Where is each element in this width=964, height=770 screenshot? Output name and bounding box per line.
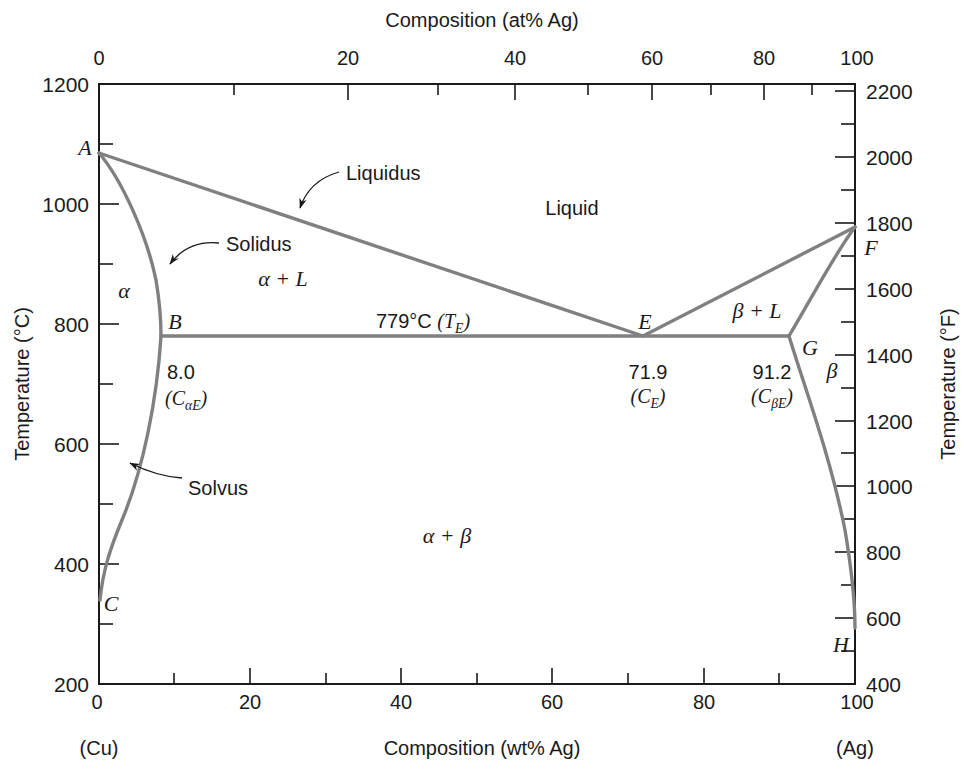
- point-label-A: A: [78, 137, 91, 159]
- right-tick-label-1400: 1400: [866, 345, 913, 366]
- phase-region-beta: β: [827, 360, 838, 382]
- phase-region-alpha-plus-l: α + L: [258, 268, 308, 290]
- right-tick-label-800: 800: [866, 542, 901, 563]
- top-axis-ticks: [99, 84, 855, 100]
- solidus-alpha-curve: [99, 153, 161, 336]
- right-tick-label-600: 600: [866, 608, 901, 629]
- top-axis-title: Composition (at% Ag): [385, 10, 578, 30]
- phase-boundaries: [99, 153, 855, 628]
- point-label-G: G: [802, 337, 818, 359]
- phase-region-beta-plus-l: β + L: [732, 300, 781, 322]
- point-label-F: F: [864, 237, 877, 259]
- plot-frame: [99, 84, 855, 684]
- point-label-E: E: [638, 311, 651, 333]
- endmember-ag-label: (Ag): [836, 738, 874, 758]
- top-tick-label-60: 60: [641, 48, 663, 68]
- right-tick-label-1000: 1000: [866, 476, 913, 497]
- annotation-liquidus: Liquidus: [346, 163, 421, 183]
- top-tick-label-0: 0: [93, 48, 104, 68]
- bottom-tick-label-40: 40: [390, 692, 412, 712]
- bottom-tick-label-60: 60: [541, 692, 563, 712]
- left-tick-label-400: 400: [54, 554, 89, 575]
- phase-region-alpha: α: [118, 280, 130, 302]
- right-tick-label-1600: 1600: [866, 279, 913, 300]
- endmember-cu-label: (Cu): [80, 738, 119, 758]
- phase-region-alpha-plus-beta: α + β: [423, 525, 471, 547]
- bottom-tick-label-20: 20: [239, 692, 261, 712]
- liquidus-leader: [300, 172, 339, 208]
- left-tick-label-1200: 1200: [42, 74, 89, 95]
- composition-value-8: 8.0: [167, 362, 195, 382]
- annotation-solidus: Solidus: [226, 234, 292, 254]
- composition-value-71-9: 71.9: [629, 362, 668, 382]
- point-label-B: B: [168, 311, 181, 333]
- left-axis-title: Temperature (°C): [12, 307, 32, 461]
- top-tick-label-20: 20: [337, 48, 359, 68]
- point-label-C: C: [104, 593, 119, 615]
- bottom-axis-ticks: [99, 668, 855, 684]
- phase-region-liquid: Liquid: [545, 198, 598, 218]
- phase-diagram-figure: Composition (at% Ag) Composition (wt% Ag…: [0, 0, 964, 770]
- left-tick-label-200: 200: [54, 674, 89, 695]
- top-tick-label-40: 40: [504, 48, 526, 68]
- top-tick-label-100: 100: [840, 48, 873, 68]
- bottom-tick-label-80: 80: [693, 692, 715, 712]
- composition-symbol-c-beta-e: (CβE): [751, 386, 793, 411]
- left-tick-label-600: 600: [54, 434, 89, 455]
- composition-symbol-c-e: (CE): [631, 386, 666, 411]
- right-tick-label-1800: 1800: [866, 213, 913, 234]
- eutectic-temperature-label: 779°C (TE): [376, 311, 470, 336]
- solidus-leader: [170, 243, 219, 264]
- composition-value-91-2: 91.2: [753, 362, 792, 382]
- bottom-axis-title: Composition (wt% Ag): [384, 738, 581, 758]
- right-tick-label-2000: 2000: [866, 147, 913, 168]
- right-tick-label-400: 400: [866, 674, 901, 695]
- right-tick-label-1200: 1200: [866, 411, 913, 432]
- left-tick-label-1000: 1000: [42, 194, 89, 215]
- annotation-solvus: Solvus: [188, 478, 248, 498]
- left-tick-label-800: 800: [54, 314, 89, 335]
- composition-symbol-c-alpha-e: (CαE): [165, 388, 207, 413]
- right-axis-title: Temperature (°F): [938, 308, 958, 459]
- bottom-tick-label-0: 0: [91, 692, 102, 712]
- diagram-canvas: [0, 0, 964, 770]
- right-tick-label-2200: 2200: [866, 81, 913, 102]
- solvus-alpha-curve: [100, 336, 161, 600]
- point-label-H: H: [833, 634, 849, 656]
- top-tick-label-80: 80: [753, 48, 775, 68]
